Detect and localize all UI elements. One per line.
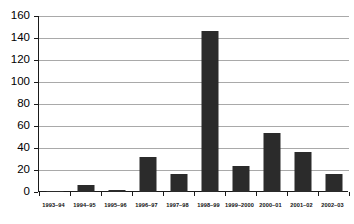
bar[interactable] bbox=[263, 133, 280, 192]
x-axis-category-label: 1996–97 bbox=[131, 203, 162, 209]
x-axis-tick-mark bbox=[225, 192, 226, 196]
x-axis-tick-mark bbox=[256, 192, 257, 196]
x-axis-category-label: 1995–96 bbox=[100, 203, 131, 209]
bar-slot bbox=[194, 16, 225, 192]
bar-chart: 020406080100120140160 1993–941994–951995… bbox=[0, 0, 354, 224]
bar-slot bbox=[256, 16, 287, 192]
x-axis-category-label: 1999–2000 bbox=[224, 203, 255, 209]
bar-slot bbox=[101, 16, 132, 192]
x-axis-tick-mark bbox=[318, 192, 319, 196]
bar[interactable] bbox=[46, 191, 63, 192]
bar[interactable] bbox=[170, 174, 187, 192]
y-axis-tick-label: 20 bbox=[0, 164, 30, 176]
bar[interactable] bbox=[139, 157, 156, 192]
bar[interactable] bbox=[325, 174, 342, 192]
bar-slot bbox=[70, 16, 101, 192]
x-axis-category-label: 1993–94 bbox=[38, 203, 69, 209]
bar-slot bbox=[225, 16, 256, 192]
plot-area bbox=[38, 16, 348, 192]
y-axis-tick-label: 120 bbox=[0, 54, 30, 66]
x-axis-tick-mark bbox=[70, 192, 71, 196]
bar-slot bbox=[287, 16, 318, 192]
bar[interactable] bbox=[108, 190, 125, 192]
bar[interactable] bbox=[77, 185, 94, 192]
bar-slot bbox=[132, 16, 163, 192]
x-axis-tick-mark bbox=[194, 192, 195, 196]
y-axis-tick-label: 100 bbox=[0, 76, 30, 88]
x-axis-tick-mark bbox=[39, 192, 40, 196]
x-axis-tick-mark bbox=[287, 192, 288, 196]
y-axis-tick-label: 160 bbox=[0, 10, 30, 22]
y-axis-tick-label: 60 bbox=[0, 120, 30, 132]
bar-slot bbox=[318, 16, 349, 192]
bar-slot bbox=[39, 16, 70, 192]
x-axis-category-label: 2002–03 bbox=[317, 203, 348, 209]
x-axis-category-label: 2001–02 bbox=[286, 203, 317, 209]
x-axis-category-label: 2000–01 bbox=[255, 203, 286, 209]
bar[interactable] bbox=[201, 31, 218, 192]
bar-slot bbox=[163, 16, 194, 192]
x-axis-tick-mark bbox=[349, 192, 350, 196]
y-axis-tick-mark bbox=[34, 192, 38, 193]
y-axis-tick-label: 80 bbox=[0, 98, 30, 110]
x-axis-tick-mark bbox=[101, 192, 102, 196]
bar[interactable] bbox=[232, 166, 249, 192]
bar-series bbox=[39, 16, 349, 192]
x-axis-category-label: 1997–98 bbox=[162, 203, 193, 209]
y-axis-tick-label: 40 bbox=[0, 142, 30, 154]
x-axis-tick-mark bbox=[132, 192, 133, 196]
x-axis-category-label: 1998–99 bbox=[193, 203, 224, 209]
y-axis-tick-label: 0 bbox=[0, 186, 30, 198]
x-axis-tick-mark bbox=[163, 192, 164, 196]
bar[interactable] bbox=[294, 152, 311, 192]
x-axis-category-label: 1994–95 bbox=[69, 203, 100, 209]
y-axis-tick-label: 140 bbox=[0, 32, 30, 44]
